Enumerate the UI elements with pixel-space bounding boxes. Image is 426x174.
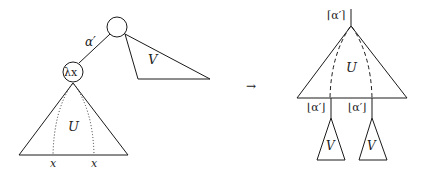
copy-v-right-label: V [367,139,377,153]
subtree-u-label: U [68,119,80,134]
subtree-u-right-label: U [346,60,358,75]
beta-reduction-diagram: α′ V λx U x x → ⌈α′⌉ U ⌊α′⌋ ⌊α′⌋ V V [0,0,426,174]
branch-label-right: ⌊α′⌋ [348,101,367,114]
rewrite-arrow: → [246,79,256,93]
branch-label-left: ⌊α′⌋ [307,101,326,114]
subtree-v-label: V [148,52,159,67]
top-label: ⌈α′⌉ [327,9,346,22]
leaf-x-left: x [50,157,57,170]
right-tree: ⌈α′⌉ U ⌊α′⌋ ⌊α′⌋ V V [297,9,407,160]
subtree-v [125,34,210,79]
leaf-x-right: x [91,157,98,170]
lambda-node-label: λx [64,66,78,79]
copy-v-left-label: V [326,139,336,153]
edge-alpha-label: α′ [85,35,96,49]
left-tree: α′ V λx U x x [19,17,210,170]
